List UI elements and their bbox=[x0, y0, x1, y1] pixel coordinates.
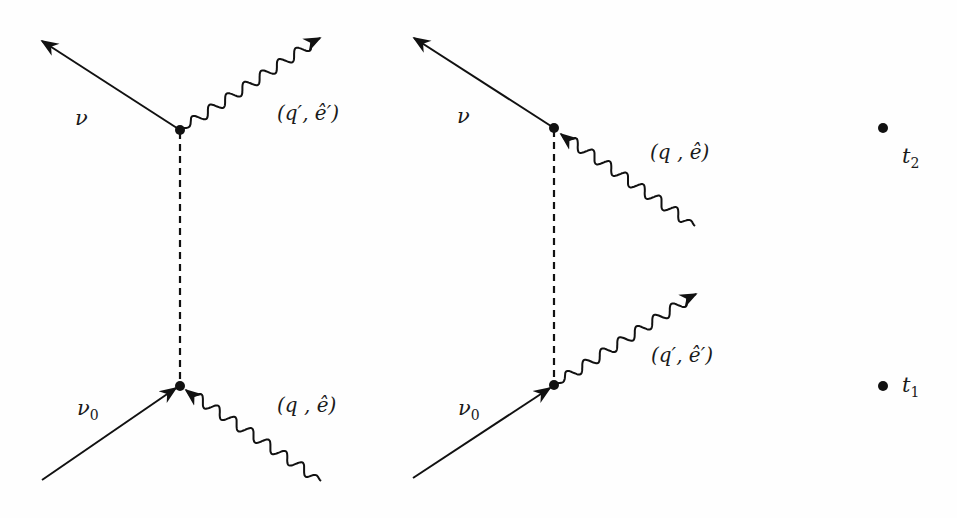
label-incoming-lepton-subscript: 0 bbox=[90, 407, 99, 423]
label-incoming-lepton: ν0 bbox=[458, 398, 480, 422]
incoming-lepton-line bbox=[42, 388, 176, 480]
label-incoming-lepton-symbol: ν bbox=[77, 396, 90, 420]
time-marker-t1-dot bbox=[878, 381, 888, 391]
outgoing-photon-wavy-line bbox=[556, 294, 696, 384]
vertex-dot bbox=[175, 381, 185, 391]
outgoing-lepton-line bbox=[42, 41, 180, 130]
time-marker-t2-dot bbox=[878, 123, 888, 133]
label-outgoing-photon: (q′, ê′) bbox=[277, 103, 339, 123]
label-incoming-photon: (q , ê) bbox=[277, 395, 336, 415]
label-outgoing-photon: (q′, ê′) bbox=[651, 345, 713, 365]
vertex-dot bbox=[175, 125, 185, 135]
label-incoming-lepton: ν0 bbox=[77, 398, 99, 422]
incoming-lepton-line bbox=[413, 388, 550, 478]
label-incoming-photon: (q , ê) bbox=[650, 142, 709, 162]
outgoing-lepton-line bbox=[414, 38, 554, 128]
label-outgoing-lepton: ν bbox=[457, 106, 470, 127]
feynman-diagram-figure: ν ν0 (q′, ê′) (q , ê) ν ν0 (q , ê) (q′, … bbox=[0, 0, 957, 518]
vertex-dot bbox=[549, 123, 559, 133]
time-label-t1-subscript: 1 bbox=[910, 384, 919, 400]
diagram-graphics bbox=[0, 0, 957, 518]
label-incoming-lepton-subscript: 0 bbox=[471, 407, 480, 423]
label-outgoing-lepton: ν bbox=[75, 108, 88, 129]
time-label-t1: t1 bbox=[902, 375, 919, 399]
vertex-dot bbox=[549, 380, 559, 390]
label-incoming-lepton-symbol: ν bbox=[458, 396, 471, 420]
right-diagram bbox=[413, 38, 696, 478]
time-label-t2: t2 bbox=[902, 146, 919, 170]
time-label-t2-subscript: 2 bbox=[910, 155, 919, 171]
